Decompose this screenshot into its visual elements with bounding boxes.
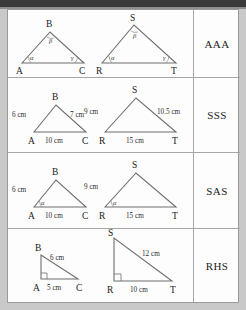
- rule-cell-rhs: RHS: [194, 229, 240, 302]
- rule-label-aaa: AAA: [204, 38, 229, 50]
- vertex-label-r: R: [99, 136, 106, 146]
- aaa-diagrams: A B C α β γ R S T: [8, 10, 193, 77]
- diagram-cell-aaa: A B C α β γ R S T: [8, 10, 193, 77]
- rule-label-sss: SSS: [207, 109, 227, 121]
- side-label-rt: 10 cm: [130, 286, 148, 294]
- triangle-abc: B A C 6 cm 5 cm: [33, 243, 82, 293]
- angle-arc-t: [166, 56, 169, 63]
- table-row-rhs: B A C 6 cm 5 cm S R T 12 cm 10 cm: [8, 229, 240, 302]
- rule-label-sas: SAS: [206, 185, 227, 197]
- table-row-aaa: A B C α β γ R S T: [8, 10, 240, 77]
- rhs-diagrams: B A C 6 cm 5 cm S R T 12 cm 10 cm: [8, 229, 193, 302]
- vertex-label-b: B: [52, 167, 58, 177]
- vertex-label-t: T: [172, 211, 178, 221]
- vertex-label-b: B: [52, 92, 58, 102]
- side-label-rt: 15 cm: [126, 137, 144, 145]
- table-row-sss: A B C 6 cm 7 cm 10 cm R S T 9 cm 1: [8, 78, 240, 152]
- table-row-sas: α A B C 6 cm 10 cm α R S T: [8, 153, 240, 228]
- side-label-rs: 9 cm: [84, 108, 99, 116]
- side-label-st: 10.5 cm: [157, 108, 181, 116]
- side-label-ab: 6 cm: [12, 111, 27, 119]
- vertex-label-t: T: [170, 285, 176, 295]
- vertex-label-r: R: [99, 211, 106, 221]
- sss-diagrams: A B C 6 cm 7 cm 10 cm R S T 9 cm 1: [8, 78, 193, 152]
- diagram-cell-rhs: B A C 6 cm 5 cm S R T 12 cm 10 cm: [8, 229, 193, 302]
- right-angle-mark-r: [114, 274, 121, 281]
- vertex-label-s: S: [132, 85, 137, 95]
- triangle-abc: A B C α β γ: [16, 19, 85, 76]
- side-label-bc: 6 cm: [50, 254, 65, 262]
- angle-label-a: α: [41, 199, 45, 206]
- vertex-label-b: B: [35, 243, 41, 253]
- angle-label-s: β: [132, 32, 137, 39]
- rule-cell-aaa: AAA: [194, 10, 240, 77]
- angle-label-r: α: [111, 54, 115, 61]
- sas-diagrams: α A B C 6 cm 10 cm α R S T: [8, 153, 193, 228]
- triangle-rst: R S T α β γ: [96, 13, 177, 76]
- angle-label-t: γ: [163, 54, 166, 61]
- side-label-rt: 15 cm: [126, 212, 144, 220]
- angle-label-c: γ: [71, 54, 74, 61]
- side-label-rs: 9 cm: [84, 183, 99, 191]
- angle-label-a: α: [30, 54, 34, 61]
- triangle-rst: R S T 9 cm 10.5 cm 15 cm: [84, 85, 181, 146]
- rule-cell-sas: SAS: [194, 153, 240, 228]
- vertex-label-r: R: [107, 285, 114, 295]
- diagram-cell-sas: α A B C 6 cm 10 cm α R S T: [8, 153, 193, 228]
- rule-cell-sss: SSS: [194, 78, 240, 152]
- side-label-ac: 10 cm: [45, 137, 63, 145]
- side-label-st: 12 cm: [142, 250, 160, 258]
- vertex-label-r: R: [96, 66, 103, 76]
- vertex-label-c: C: [76, 283, 82, 293]
- vertex-label-t: T: [172, 136, 178, 146]
- triangle-rst: α R S T 9 cm 15 cm: [84, 160, 178, 221]
- triangle-rst-outline: [114, 238, 172, 281]
- triangle-rst: S R T 12 cm 10 cm: [107, 229, 176, 295]
- triangle-abc: α A B C 6 cm 10 cm: [12, 167, 88, 221]
- triangle-criteria-table: A B C α β γ R S T: [7, 9, 239, 303]
- vertex-label-c: C: [82, 211, 88, 221]
- vertex-label-s: S: [132, 160, 137, 170]
- side-label-ac: 5 cm: [47, 284, 62, 292]
- diagram-cell-sss: A B C 6 cm 7 cm 10 cm R S T 9 cm 1: [8, 78, 193, 152]
- angle-label-r: α: [113, 199, 117, 206]
- vertex-label-b: B: [46, 19, 52, 29]
- vertex-label-s: S: [108, 229, 113, 238]
- vertex-label-a: A: [16, 66, 23, 76]
- angle-arc-c: [75, 57, 78, 64]
- angle-label-b: β: [48, 37, 53, 44]
- vertex-label-c: C: [82, 136, 88, 146]
- side-label-ac: 10 cm: [45, 212, 63, 220]
- top-edge-bar: [0, 0, 246, 7]
- vertex-label-a: A: [28, 211, 35, 221]
- vertex-label-a: A: [28, 136, 35, 146]
- screenshot-root: A B C α β γ R S T: [0, 0, 246, 310]
- side-label-ab: 6 cm: [12, 186, 27, 194]
- side-label-bc: 7 cm: [70, 111, 85, 119]
- vertex-label-c: C: [79, 66, 85, 76]
- vertex-label-a: A: [33, 283, 40, 293]
- right-angle-mark-a: [41, 273, 47, 279]
- vertex-label-s: S: [130, 13, 135, 23]
- vertex-label-t: T: [171, 66, 177, 76]
- rule-label-rhs: RHS: [206, 260, 229, 272]
- triangle-abc: A B C 6 cm 7 cm 10 cm: [12, 92, 88, 146]
